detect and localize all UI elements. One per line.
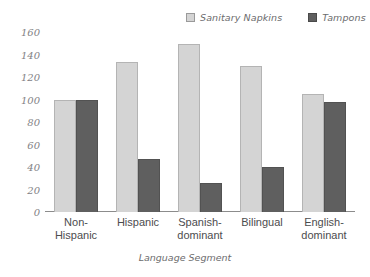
bar-chart: Sanitary Napkins Tampons 160140120100806… bbox=[0, 0, 370, 277]
x-axis-label-line: Hispanic bbox=[45, 229, 107, 242]
y-axis-tick-label: 140 bbox=[21, 49, 40, 60]
x-axis: Non-HispanicHispanicSpanish-dominantBili… bbox=[45, 216, 355, 256]
legend-swatch-icon-sanitary-napkins bbox=[186, 13, 195, 22]
x-axis-label-line: Spanish- bbox=[169, 216, 231, 229]
x-axis-category-label: Bilingual bbox=[231, 216, 293, 229]
y-axis-tick-label: 80 bbox=[27, 117, 40, 128]
x-axis-label-line: dominant bbox=[293, 229, 355, 242]
bar-tampons bbox=[262, 167, 284, 212]
chart-legend: Sanitary Napkins Tampons bbox=[186, 12, 366, 23]
y-axis-tick-label: 20 bbox=[27, 184, 40, 195]
bar-group bbox=[231, 32, 293, 212]
legend-item-tampons: Tampons bbox=[308, 12, 365, 23]
bar-tampons bbox=[200, 183, 222, 212]
y-axis-tick-label: 40 bbox=[27, 162, 40, 173]
bar-tampons bbox=[324, 102, 346, 212]
legend-label-tampons: Tampons bbox=[322, 12, 365, 23]
bar-sanitary-napkins bbox=[240, 66, 262, 212]
bar-group bbox=[107, 32, 169, 212]
y-axis-tick-label: 120 bbox=[21, 72, 40, 83]
x-axis-label-line: Hispanic bbox=[107, 216, 169, 229]
bar-tampons bbox=[76, 100, 98, 213]
bar-sanitary-napkins bbox=[302, 94, 324, 212]
y-axis: 160140120100806040200 bbox=[0, 32, 40, 212]
x-axis-label-line: English- bbox=[293, 216, 355, 229]
y-axis-tick-label: 60 bbox=[27, 139, 40, 150]
y-axis-tick-label: 0 bbox=[34, 207, 40, 218]
legend-label-sanitary-napkins: Sanitary Napkins bbox=[200, 12, 282, 23]
bar-group bbox=[293, 32, 355, 212]
legend-swatch-icon-tampons bbox=[308, 13, 317, 22]
x-axis-title: Language Segment bbox=[0, 252, 370, 263]
x-axis-category-label: Non-Hispanic bbox=[45, 216, 107, 242]
bar-group bbox=[45, 32, 107, 212]
y-axis-tick-label: 160 bbox=[21, 27, 40, 38]
x-axis-label-line: dominant bbox=[169, 229, 231, 242]
plot-area bbox=[45, 32, 355, 212]
x-axis-category-label: Spanish-dominant bbox=[169, 216, 231, 242]
x-axis-label-line: Non- bbox=[45, 216, 107, 229]
y-axis-tick-label: 100 bbox=[21, 94, 40, 105]
bar-sanitary-napkins bbox=[178, 44, 200, 212]
bar-sanitary-napkins bbox=[116, 62, 138, 212]
bar-tampons bbox=[138, 159, 160, 212]
legend-item-sanitary-napkins: Sanitary Napkins bbox=[186, 12, 282, 23]
bar-group bbox=[169, 32, 231, 212]
x-axis-category-label: Hispanic bbox=[107, 216, 169, 229]
x-axis-label-line: Bilingual bbox=[231, 216, 293, 229]
bar-sanitary-napkins bbox=[54, 100, 76, 213]
x-axis-category-label: English-dominant bbox=[293, 216, 355, 242]
